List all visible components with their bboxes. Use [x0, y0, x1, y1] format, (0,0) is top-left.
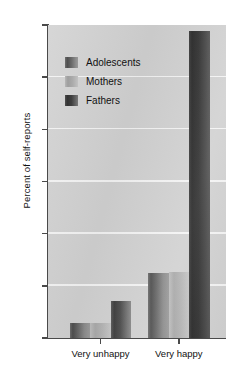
chart-legend: Adolescents Mothers Fathers: [65, 54, 140, 111]
x-tick-label: Very unhappy: [56, 348, 146, 359]
bar-fathers-1: [189, 31, 210, 338]
adolescents-swatch-icon: [65, 57, 78, 68]
bar-mothers-1: [169, 272, 190, 338]
y-tick: [42, 233, 47, 234]
x-axis-line: [47, 338, 226, 339]
mothers-swatch-icon: [65, 76, 78, 87]
bar-chart-figure: Percent of self-reports 051015202530 Ver…: [0, 0, 246, 378]
y-tick: [42, 337, 47, 338]
legend-label-adolescents: Adolescents: [86, 57, 140, 68]
y-tick: [42, 76, 47, 77]
legend-label-fathers: Fathers: [86, 95, 120, 106]
bar-adolescents-0: [70, 323, 91, 338]
y-axis-title: Percent of self-reports: [21, 61, 32, 261]
y-tick: [42, 181, 47, 182]
y-tick: [42, 285, 47, 286]
bar-fathers-0: [111, 301, 132, 338]
bar-mothers-0: [90, 323, 111, 338]
x-tick: [100, 339, 101, 344]
y-tick: [42, 129, 47, 130]
legend-label-mothers: Mothers: [86, 76, 122, 87]
x-tick: [178, 339, 179, 344]
legend-item-mothers: Mothers: [65, 73, 140, 90]
legend-item-fathers: Fathers: [65, 92, 140, 109]
y-tick: [42, 24, 47, 25]
legend-item-adolescents: Adolescents: [65, 54, 140, 71]
bar-adolescents-1: [148, 273, 169, 338]
fathers-swatch-icon: [65, 95, 78, 106]
x-tick-label: Very happy: [134, 348, 224, 359]
